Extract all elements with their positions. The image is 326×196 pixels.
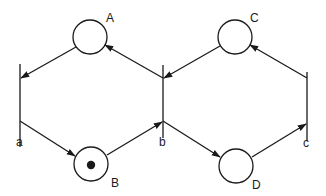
place-c-label: C — [250, 12, 259, 24]
transition-c-label: c — [303, 137, 309, 149]
place-c-circle — [218, 20, 252, 54]
arc-c-place-to-b-transition — [164, 46, 220, 78]
place-d-circle — [219, 149, 253, 183]
transition-a-label: a — [16, 136, 23, 148]
transition-b-label: b — [159, 136, 166, 148]
petri-net-diagram — [0, 0, 326, 196]
arc-b-transition-to-d-place — [163, 121, 220, 157]
arc-c-transition-to-c-place — [250, 45, 307, 78]
arc-d-place-to-c-transition — [252, 124, 306, 157]
arc-b-transition-to-a-place — [105, 45, 163, 78]
place-a-circle — [73, 20, 107, 54]
place-b-label: B — [111, 177, 119, 189]
token-icon — [87, 161, 95, 169]
arc-a-transition-to-b-place — [20, 121, 75, 156]
arc-a-place-to-a-transition — [21, 47, 76, 78]
place-d-label: D — [252, 179, 261, 191]
arc-b-place-to-b-transition — [107, 122, 162, 155]
place-a-label: A — [106, 12, 114, 24]
